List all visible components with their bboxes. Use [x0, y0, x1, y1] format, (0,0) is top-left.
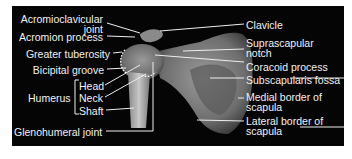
label-clavicle: Clavicle [246, 20, 283, 30]
label-bicipital-groove: Bicipital groove [10, 65, 104, 75]
label-line: scapula [246, 126, 323, 136]
label-medial-border: Medial border of scapula [246, 92, 322, 112]
humeral-shaft-shape [128, 72, 150, 128]
label-humerus: Humerus [28, 93, 71, 103]
label-glenohumeral-joint: Glenohumeral joint [14, 127, 102, 137]
label-suprascapular-notch: Suprascapular notch [246, 38, 314, 58]
label-subscapularis-fossa: Subscapularis fossa [246, 75, 340, 85]
label-line: notch [246, 48, 314, 58]
label-shaft: Shaft [79, 106, 104, 116]
label-neck: Neck [79, 93, 103, 103]
label-head: Head [79, 81, 104, 91]
label-lateral-border: Lateral border of scapula [246, 116, 323, 136]
label-line: scapula [246, 102, 322, 112]
label-greater-tuberosity: Greater tuberosity [10, 49, 110, 59]
label-acromion-process: Acromion process [10, 32, 103, 42]
label-coracoid-process: Coracoid process [246, 62, 328, 72]
clavicle-shape [140, 29, 163, 42]
